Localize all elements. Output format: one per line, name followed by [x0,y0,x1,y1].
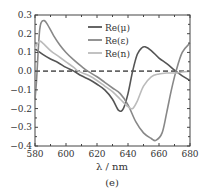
legend-label: Re(μ) [105,23,130,33]
x-tick-label: 640 [119,149,136,159]
y-tick-label: −0.1 [10,85,32,95]
y-tick-label: −0.2 [10,104,32,114]
panel-label: (e) [105,177,119,188]
legend-label: Re(n) [105,49,130,59]
y-tick-label: 0.1 [18,47,32,57]
legend: Re(μ)Re(ε)Re(n) [88,23,130,59]
x-axis-label: λ / nm [96,161,129,172]
x-tick-label: 680 [181,149,198,159]
y-tick-label: 0.0 [18,66,33,76]
x-tick-label: 620 [88,149,105,159]
y-tick-label: −0.4 [10,141,32,151]
x-tick-label: 600 [57,149,74,159]
chart-figure: 580600620640660680 0.30.20.10.0−0.1−0.2−… [0,0,207,193]
legend-label: Re(ε) [105,36,129,46]
y-tick-label: 0.3 [18,10,33,20]
y-tick-label: 0.2 [18,29,32,39]
y-tick-label: −0.3 [10,122,32,132]
x-tick-label: 660 [150,149,167,159]
